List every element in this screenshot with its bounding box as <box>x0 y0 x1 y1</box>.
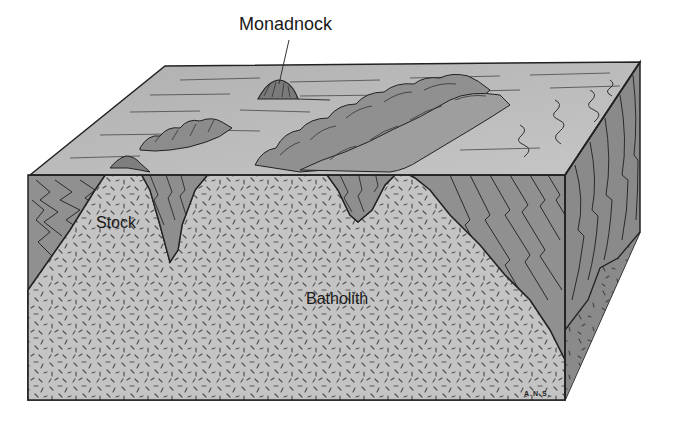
label-monadnock: Monadnock <box>239 14 332 35</box>
label-batholith: Batholith <box>306 290 368 308</box>
front-face <box>28 160 565 400</box>
artist-signature: A.N.S. <box>524 390 551 397</box>
block-diagram: Monadnock Stock Batholith A.N.S. <box>0 0 674 430</box>
top-face <box>30 40 640 175</box>
label-stock: Stock <box>96 214 136 232</box>
